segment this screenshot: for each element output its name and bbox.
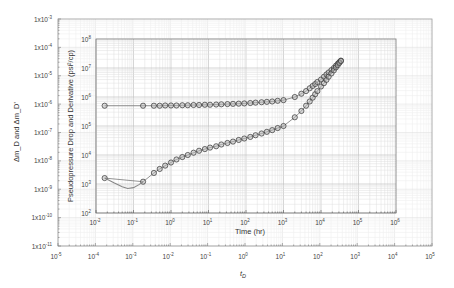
tick-label: 1x10-4: [34, 43, 53, 51]
tick-label: 103: [81, 180, 91, 188]
data-point-marker: [299, 91, 304, 96]
tick-label: 1x10-6: [34, 100, 53, 108]
data-point-marker: [230, 101, 235, 106]
data-point-marker: [315, 88, 320, 93]
data-point-marker: [299, 108, 304, 113]
tick-label: 10-3: [125, 252, 137, 260]
data-point-marker: [242, 136, 247, 141]
data-point-marker: [248, 100, 253, 105]
inner-y-axis-label: Pseudopressure Drop and Derivative (psi²…: [66, 49, 75, 202]
data-point-marker: [214, 102, 219, 107]
data-point-marker: [270, 99, 275, 104]
data-point-marker: [174, 103, 179, 108]
tick-label: 104: [315, 218, 325, 226]
data-point-marker: [191, 102, 196, 107]
data-point-marker: [185, 152, 190, 157]
tick-label: 1x10-8: [34, 156, 53, 164]
data-point-marker: [140, 103, 145, 108]
data-point-marker: [248, 134, 253, 139]
data-point-marker: [253, 133, 258, 138]
tick-label: 102: [240, 218, 250, 226]
tick-label: 1x10-9: [34, 185, 53, 193]
data-point-marker: [242, 101, 247, 106]
outer-y-axis-label: Δm_D and Δm_D': [12, 102, 21, 162]
tick-label: 101: [203, 218, 213, 226]
data-point-marker: [214, 144, 219, 149]
data-point-marker: [180, 154, 185, 159]
data-point-marker: [275, 98, 280, 103]
tick-label: 101: [276, 252, 286, 260]
data-point-marker: [259, 100, 264, 105]
data-point-marker: [338, 58, 343, 63]
tick-label: 100: [238, 252, 248, 260]
data-point-marker: [259, 131, 264, 136]
data-point-marker: [196, 148, 201, 153]
outer-x-tick-labels: 10-510-410-310-210-1100101102103104105: [50, 252, 435, 260]
data-point-marker: [151, 103, 156, 108]
tick-label: 10-1: [127, 218, 139, 226]
data-point-marker: [207, 102, 212, 107]
tick-label: 100: [165, 218, 175, 226]
chart-canvas: 1x10-31x10-41x10-51x10-61x10-71x10-81x10…: [0, 0, 454, 288]
tick-label: 108: [81, 35, 91, 43]
tick-label: 104: [388, 252, 398, 260]
tick-label: 102: [81, 209, 91, 217]
data-point-marker: [163, 163, 168, 168]
data-point-marker: [292, 115, 297, 120]
tick-label: 105: [81, 122, 91, 130]
inner-x-axis-label: Time (hr): [235, 227, 266, 236]
data-point-marker: [191, 150, 196, 155]
data-point-marker: [174, 157, 179, 162]
tick-label: 1x10-7: [34, 128, 53, 136]
tick-label: 1x10-3: [34, 15, 53, 23]
data-point-marker: [236, 101, 241, 106]
data-point-marker: [253, 100, 258, 105]
data-point-marker: [281, 98, 286, 103]
data-point-marker: [157, 103, 162, 108]
tick-label: 10-4: [88, 252, 100, 260]
tick-label: 10-2: [163, 252, 175, 260]
tick-label: 1x10-11: [32, 242, 53, 250]
tick-label: 10-1: [200, 252, 212, 260]
data-point-marker: [281, 123, 286, 128]
tick-label: 1x10-5: [34, 71, 53, 79]
tick-label: 103: [350, 252, 360, 260]
data-point-marker: [264, 129, 269, 134]
tick-label: 10-5: [50, 252, 62, 260]
data-point-marker: [102, 103, 107, 108]
data-point-marker: [275, 125, 280, 130]
tick-label: 107: [81, 64, 91, 72]
data-point-marker: [225, 140, 230, 145]
data-point-marker: [196, 102, 201, 107]
data-point-marker: [292, 94, 297, 99]
outer-y-tick-labels: 1x10-31x10-41x10-51x10-61x10-71x10-81x10…: [31, 15, 52, 250]
tick-label: 105: [353, 218, 363, 226]
data-point-marker: [163, 103, 168, 108]
data-point-marker: [236, 137, 241, 142]
tick-label: 105: [425, 252, 435, 260]
inner-x-tick-labels: 10-210-1100101102103104105106: [89, 218, 400, 226]
data-point-marker: [180, 103, 185, 108]
tick-label: 106: [81, 93, 91, 101]
data-point-marker: [207, 145, 212, 150]
tick-label: 10-2: [89, 218, 101, 226]
tick-label: 106: [390, 218, 400, 226]
data-point-marker: [202, 102, 207, 107]
data-point-marker: [157, 166, 162, 171]
tick-label: 102: [313, 252, 323, 260]
data-point-marker: [219, 102, 224, 107]
outer-x-axis-label: tD: [240, 269, 246, 279]
data-point-marker: [102, 175, 107, 180]
data-point-marker: [225, 101, 230, 106]
tick-label: 104: [81, 151, 91, 159]
data-point-marker: [270, 128, 275, 133]
data-point-marker: [303, 103, 308, 108]
data-point-marker: [185, 103, 190, 108]
data-point-marker: [168, 103, 173, 108]
data-point-marker: [230, 139, 235, 144]
data-point-marker: [264, 99, 269, 104]
tick-label: 103: [278, 218, 288, 226]
data-point-marker: [202, 146, 207, 151]
data-point-marker: [168, 160, 173, 165]
data-point-marker: [151, 170, 156, 175]
